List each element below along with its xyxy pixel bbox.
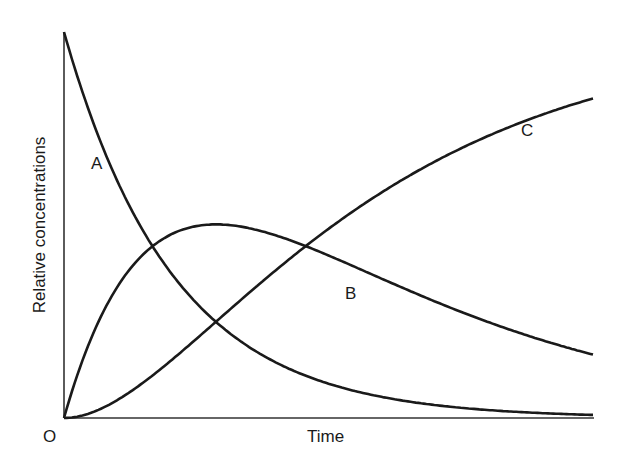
- curve-a: [64, 32, 593, 415]
- chart-canvas: [0, 0, 625, 458]
- curve-label-b: B: [345, 285, 356, 302]
- curve-label-a: A: [91, 155, 102, 172]
- curve-label-c: C: [521, 122, 533, 139]
- curve-b: [64, 224, 593, 418]
- origin-label: O: [43, 428, 56, 445]
- x-axis-label: Time: [307, 428, 344, 445]
- curve-c: [64, 99, 593, 419]
- y-axis-label: Relative concentrations: [30, 137, 50, 314]
